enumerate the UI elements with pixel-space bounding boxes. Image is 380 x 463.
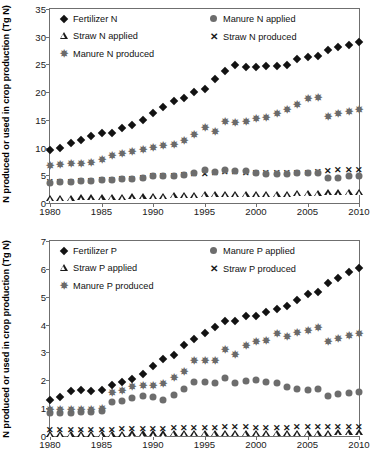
legend-item-fertilizer-n: Fertilizer N bbox=[58, 14, 117, 24]
legend-item-label: Manure P produced bbox=[73, 281, 154, 291]
marker-diamond bbox=[252, 63, 260, 71]
marker-diamond bbox=[355, 37, 363, 45]
legend-item-label: Fertilizer N bbox=[73, 14, 117, 24]
legend-item-straw-p-produced: ✕Straw P produced bbox=[208, 263, 296, 274]
marker-diamond bbox=[334, 274, 342, 282]
marker-diamond bbox=[108, 128, 116, 136]
y-axis-tick-label: 6 bbox=[12, 263, 46, 274]
legend-item-straw-p-applied: Straw P applied bbox=[58, 263, 137, 273]
marker-diamond bbox=[138, 116, 146, 124]
marker-diamond bbox=[211, 75, 219, 83]
marker-diamond bbox=[56, 393, 64, 401]
cut-off-caption bbox=[6, 455, 374, 463]
y-axis-tick-label: 20 bbox=[12, 87, 46, 98]
x-axis-tick-mark bbox=[205, 436, 206, 440]
marker-diamond bbox=[211, 323, 219, 331]
marker-diamond bbox=[283, 61, 291, 69]
x-axis-tick-label: 1980 bbox=[39, 206, 60, 217]
x-axis-tick-mark bbox=[153, 436, 154, 440]
x-axis-tick-mark bbox=[205, 203, 206, 207]
marker-diamond bbox=[66, 139, 74, 147]
x-axis-tick-label: 2010 bbox=[348, 439, 369, 450]
marker-diamond bbox=[344, 41, 352, 49]
legend-item-label: Straw N produced bbox=[223, 32, 297, 42]
marker-diamond bbox=[128, 121, 136, 129]
legend-cross-icon: ✕ bbox=[210, 263, 218, 274]
y-axis-tick-label: 25 bbox=[12, 59, 46, 70]
marker-diamond bbox=[252, 312, 260, 320]
legend-star-icon: ✸ bbox=[60, 280, 68, 291]
legend-circle-icon bbox=[210, 247, 217, 254]
marker-diamond bbox=[272, 61, 280, 69]
x-axis-tick-mark bbox=[102, 436, 103, 440]
marker-diamond bbox=[334, 43, 342, 51]
marker-diamond bbox=[324, 46, 332, 54]
legend-item-straw-n-applied: Straw N applied bbox=[58, 31, 138, 41]
y-axis-tick-label: 4 bbox=[12, 319, 46, 330]
marker-diamond bbox=[159, 355, 167, 363]
marker-diamond bbox=[303, 53, 311, 61]
x-axis-tick-mark bbox=[50, 203, 51, 207]
plot-area-nitrogen: 0510152025303519801985199019952000200520… bbox=[49, 8, 360, 204]
y-axis-tick-label: 3 bbox=[12, 347, 46, 358]
marker-diamond bbox=[97, 386, 105, 394]
legend-item-label: Fertilizer P bbox=[73, 246, 117, 256]
marker-diamond bbox=[87, 132, 95, 140]
x-axis-tick-mark bbox=[308, 436, 309, 440]
legend-item-manure-n-applied: Manure N applied bbox=[208, 14, 296, 24]
legend-star-icon: ✸ bbox=[60, 48, 68, 59]
x-axis-tick-label: 1990 bbox=[142, 206, 163, 217]
x-axis-tick-mark bbox=[256, 203, 257, 207]
marker-diamond bbox=[303, 290, 311, 298]
y-axis-tick-label: 1 bbox=[12, 403, 46, 414]
marker-diamond bbox=[293, 55, 301, 63]
x-axis-tick-mark bbox=[102, 203, 103, 207]
x-axis-tick-mark bbox=[153, 203, 154, 207]
legend-item-label: Manure N applied bbox=[223, 14, 296, 24]
y-axis-tick-label: 5 bbox=[12, 291, 46, 302]
marker-diamond bbox=[200, 85, 208, 93]
marker-diamond bbox=[314, 51, 322, 59]
marker-diamond bbox=[118, 123, 126, 131]
marker-diamond bbox=[221, 317, 229, 325]
marker-diamond bbox=[231, 317, 239, 325]
marker-diamond bbox=[180, 93, 188, 101]
x-axis-tick-mark bbox=[50, 436, 51, 440]
figure-root: N produced or used in crop production (T… bbox=[0, 0, 380, 463]
marker-diamond bbox=[77, 386, 85, 394]
legend-diamond-icon bbox=[59, 15, 67, 23]
x-axis-tick-label: 1995 bbox=[194, 439, 215, 450]
y-axis-tick-label: 7 bbox=[12, 236, 46, 247]
y-axis-tick-label: 5 bbox=[12, 170, 46, 181]
x-axis-tick-mark bbox=[308, 203, 309, 207]
chart-panel-nitrogen: N produced or used in crop production (T… bbox=[0, 0, 380, 231]
marker-diamond bbox=[97, 129, 105, 137]
legend-item-manure-p-applied: Manure P applied bbox=[208, 246, 295, 256]
y-axis-tick-label: 30 bbox=[12, 31, 46, 42]
y-axis-tick-label: 15 bbox=[12, 114, 46, 125]
x-axis-tick-mark bbox=[359, 436, 360, 440]
legend-item-manure-p-produced: ✸Manure P produced bbox=[58, 280, 154, 291]
legend-item-fertilizer-p: Fertilizer P bbox=[58, 246, 117, 256]
marker-diamond bbox=[190, 335, 198, 343]
x-axis-tick-label: 1995 bbox=[194, 206, 215, 217]
marker-diamond bbox=[159, 102, 167, 110]
marker-diamond bbox=[190, 88, 198, 96]
marker-diamond bbox=[108, 381, 116, 389]
legend-item-label: Straw N applied bbox=[73, 31, 138, 41]
marker-diamond bbox=[262, 61, 270, 69]
y-axis-tick-label: 35 bbox=[12, 4, 46, 15]
legend-circle-icon bbox=[210, 15, 217, 22]
x-axis-tick-mark bbox=[256, 436, 257, 440]
marker-diamond bbox=[231, 61, 239, 69]
marker-diamond bbox=[293, 296, 301, 304]
marker-diamond bbox=[241, 62, 249, 70]
x-axis-tick-label: 1980 bbox=[39, 439, 60, 450]
marker-diamond bbox=[272, 305, 280, 313]
marker-diamond bbox=[169, 97, 177, 105]
x-axis-tick-label: 1990 bbox=[142, 439, 163, 450]
marker-diamond bbox=[87, 386, 95, 394]
marker-diamond bbox=[344, 268, 352, 276]
y-axis-tick-label: 2 bbox=[12, 375, 46, 386]
marker-diamond bbox=[200, 329, 208, 337]
